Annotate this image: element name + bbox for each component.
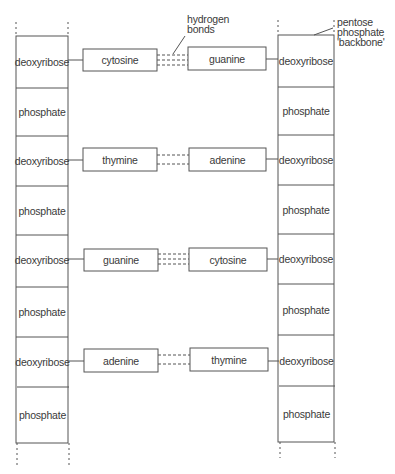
left-phosphate-3: phosphate <box>16 287 68 337</box>
backbone-annotation: pentose phosphate 'backbone' <box>337 17 385 47</box>
left-phosphate-4: phosphate <box>16 387 69 443</box>
right-sugar-3: deoxyribose <box>278 234 334 284</box>
right-phosphate-3: phosphate <box>278 284 334 335</box>
left-sugar-4: deoxyribose <box>16 337 69 387</box>
left-sugar-3: deoxyribose <box>16 235 68 285</box>
right-sugar-2: deoxyribose <box>278 135 334 185</box>
base-left-3: guanine <box>84 249 158 271</box>
base-right-3: cytosine <box>189 248 267 271</box>
backbone-leader <box>314 28 333 35</box>
left-phosphate-2: phosphate <box>16 186 68 235</box>
hydrogen-bonds-annotation: hydrogen bonds <box>187 14 229 34</box>
right-phosphate-2: phosphate <box>278 185 334 234</box>
left-phosphate-1: phosphate <box>16 88 68 136</box>
base-left-4: adenine <box>84 349 158 372</box>
right-sugar-4: deoxyribose <box>278 335 335 386</box>
right-sugar-1: deoxyribose <box>278 35 334 87</box>
right-phosphate-4: phosphate <box>278 386 335 442</box>
left-sugar-2: deoxyribose <box>16 136 68 186</box>
annotation-line: bonds <box>187 24 229 34</box>
left-sugar-1: deoxyribose <box>16 36 68 88</box>
hydrogen-bonds-leader <box>173 36 185 54</box>
annotation-line: 'backbone' <box>337 37 385 47</box>
base-right-1: guanine <box>188 47 266 70</box>
base-left-2: thymine <box>83 148 157 171</box>
right-phosphate-1: phosphate <box>278 87 334 135</box>
base-right-4: thymine <box>190 348 268 371</box>
base-right-2: adenine <box>189 148 266 171</box>
base-left-1: cytosine <box>83 49 157 71</box>
